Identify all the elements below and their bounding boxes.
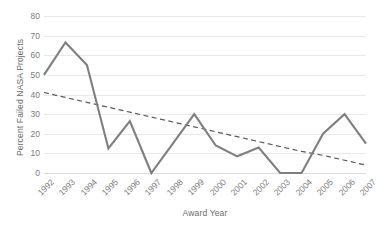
y-tick-label-20: 20: [18, 129, 40, 138]
series-line-percent-failed: [44, 42, 366, 173]
x-axis-tick-labels: 1992199319941995199619971998199920002001…: [44, 173, 366, 213]
x-tick-label-1999: 1999: [181, 177, 206, 202]
x-tick-label-1998: 1998: [159, 177, 184, 202]
y-tick-label-70: 70: [18, 31, 40, 40]
x-tick-label-1996: 1996: [116, 177, 141, 202]
y-tick-label-80: 80: [18, 12, 40, 21]
y-tick-label-60: 60: [18, 51, 40, 60]
x-tick-label-2007: 2007: [353, 177, 378, 202]
y-tick-label-30: 30: [18, 110, 40, 119]
x-tick-label-2000: 2000: [202, 177, 227, 202]
x-tick-label-1997: 1997: [138, 177, 163, 202]
x-tick-label-1995: 1995: [95, 177, 120, 202]
x-tick-label-1994: 1994: [74, 177, 99, 202]
plot-area: [44, 16, 366, 173]
x-axis-title: Award Year: [44, 208, 366, 218]
y-tick-label-10: 10: [18, 149, 40, 158]
x-tick-label-2004: 2004: [288, 177, 313, 202]
x-tick-label-2006: 2006: [331, 177, 356, 202]
x-tick-label-2002: 2002: [245, 177, 270, 202]
x-tick-label-2003: 2003: [267, 177, 292, 202]
x-tick-label-2005: 2005: [310, 177, 335, 202]
y-tick-label-40: 40: [18, 90, 40, 99]
y-tick-label-0: 0: [18, 169, 40, 178]
series-plot: [44, 16, 366, 173]
x-tick-label-1993: 1993: [52, 177, 77, 202]
y-tick-label-50: 50: [18, 70, 40, 79]
x-tick-label-2001: 2001: [224, 177, 249, 202]
